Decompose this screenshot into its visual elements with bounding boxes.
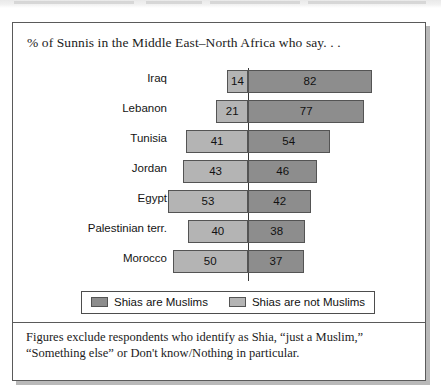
chart-row: Iraq1482 — [13, 68, 425, 98]
category-label: Lebanon — [17, 102, 167, 114]
bar-not-muslims: 43 — [183, 160, 248, 183]
bar-muslims: 38 — [248, 220, 305, 243]
category-label: Tunisia — [17, 132, 167, 144]
category-label: Iraq — [17, 72, 167, 84]
bar-not-muslims: 50 — [173, 250, 249, 273]
chart-legend: Shias are Muslims Shias are not Muslims — [81, 291, 375, 314]
chart-row: Palestinian terr.4038 — [13, 218, 425, 248]
legend-swatch-muslims — [91, 297, 108, 307]
page-bleed-band — [0, 0, 441, 8]
bar-not-muslims: 21 — [216, 100, 248, 123]
chart-row: Lebanon2177 — [13, 98, 425, 128]
category-label: Egypt — [17, 192, 167, 204]
bar-not-muslims: 41 — [186, 130, 248, 153]
chart-plot-area: Iraq1482Lebanon2177Tunisia4154Jordan4346… — [13, 68, 425, 283]
legend-swatch-not-muslims — [229, 297, 246, 307]
bar-not-muslims: 40 — [188, 220, 248, 243]
legend-item-muslims: Shias are Muslims — [91, 296, 208, 308]
category-label: Jordan — [17, 162, 167, 174]
legend-label-muslims: Shias are Muslims — [114, 296, 208, 308]
category-label: Morocco — [17, 252, 167, 264]
figure-frame: % of Sunnis in the Middle East–North Afr… — [12, 22, 426, 381]
chart-row: Tunisia4154 — [13, 128, 425, 158]
bar-muslims: 37 — [248, 250, 304, 273]
figure-footnote: Figures exclude respondents who identify… — [26, 329, 411, 361]
bar-muslims: 42 — [248, 190, 311, 213]
legend-label-not-muslims: Shias are not Muslims — [252, 296, 365, 308]
chart-row: Morocco5037 — [13, 248, 425, 278]
footnote-divider — [13, 322, 425, 323]
bar-not-muslims: 53 — [168, 190, 248, 213]
figure-title: % of Sunnis in the Middle East–North Afr… — [27, 35, 341, 51]
category-label: Palestinian terr. — [17, 222, 167, 234]
bar-not-muslims: 14 — [227, 70, 248, 93]
bar-muslims: 82 — [248, 70, 372, 93]
legend-item-not-muslims: Shias are not Muslims — [229, 296, 365, 308]
chart-row: Egypt5342 — [13, 188, 425, 218]
bar-muslims: 46 — [248, 160, 317, 183]
bar-muslims: 77 — [248, 100, 364, 123]
chart-row: Jordan4346 — [13, 158, 425, 188]
bar-muslims: 54 — [248, 130, 330, 153]
